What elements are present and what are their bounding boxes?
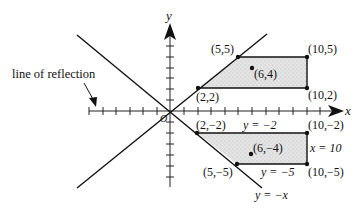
upper-shaded-region bbox=[198, 57, 307, 88]
vertex-label-5-neg5: (5,−5) bbox=[203, 166, 233, 178]
line-label-y-neg-x: y = −x bbox=[255, 189, 288, 201]
x-axis bbox=[89, 107, 335, 115]
vertex-label-10-neg2: (10,−2) bbox=[308, 119, 344, 131]
vertex-label-10-5: (10,5) bbox=[308, 43, 337, 55]
x-axis-label: x bbox=[345, 104, 351, 117]
point-label-6-4: (6,4) bbox=[254, 68, 277, 80]
vertex-label-5-5: (5,5) bbox=[211, 43, 234, 55]
point-label-6-neg4: (6,−4) bbox=[253, 142, 283, 154]
reflection-pointer-arrow bbox=[84, 83, 97, 107]
line-label-y-neg5: y = −5 bbox=[261, 166, 295, 178]
line-of-reflection-label: line of reflection bbox=[12, 68, 95, 81]
coordinate-plane bbox=[0, 0, 358, 213]
vertex-label-2-2: (2,2) bbox=[196, 91, 219, 103]
line-label-y-neg2: y = −2 bbox=[243, 119, 277, 131]
vertex-label-10-neg5: (10,−5) bbox=[308, 166, 344, 178]
y-axis bbox=[166, 28, 174, 187]
vertex-label-10-2: (10,2) bbox=[308, 89, 337, 101]
y-axis-label: y bbox=[166, 9, 172, 22]
origin-label: O bbox=[160, 114, 167, 124]
vertex-label-2-neg2: (2,−2) bbox=[196, 119, 226, 131]
line-label-x-10: x = 10 bbox=[310, 142, 341, 154]
